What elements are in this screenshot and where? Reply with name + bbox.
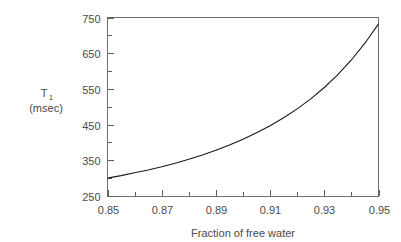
y-axis-title-main: T xyxy=(41,87,48,99)
x-axis-title: Fraction of free water xyxy=(191,227,295,239)
tick-label: 250 xyxy=(82,191,100,203)
tick-label: 0.95 xyxy=(369,204,390,216)
tick-label: 350 xyxy=(82,155,100,167)
chart-background xyxy=(0,0,401,242)
tick-label: 550 xyxy=(82,84,100,96)
tick-label: 0.89 xyxy=(206,204,227,216)
t1-vs-free-water-line-chart: 250350450550650750 0.850.870.890.910.930… xyxy=(0,0,401,242)
tick-label: 0.87 xyxy=(152,204,173,216)
tick-label: 450 xyxy=(82,120,100,132)
y-axis-title-subscript: 1 xyxy=(49,93,54,102)
tick-label: 650 xyxy=(82,48,100,60)
y-axis-title-units: (msec) xyxy=(29,102,63,114)
tick-label: 0.91 xyxy=(260,204,281,216)
tick-label: 0.93 xyxy=(314,204,335,216)
chart-container: 250350450550650750 0.850.870.890.910.930… xyxy=(0,0,401,242)
tick-label: 750 xyxy=(82,13,100,25)
tick-label: 0.85 xyxy=(98,204,119,216)
